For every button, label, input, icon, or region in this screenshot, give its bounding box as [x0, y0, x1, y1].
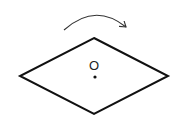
- center-point: [93, 75, 96, 78]
- diagram-canvas: O: [0, 0, 182, 123]
- center-label: O: [89, 58, 99, 73]
- rotation-arrow: [64, 15, 126, 30]
